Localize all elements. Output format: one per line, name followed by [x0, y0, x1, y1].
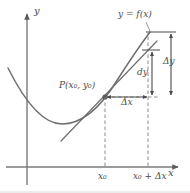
x-axis-label: x [168, 168, 174, 178]
x-tick-label-x0: x₀ [98, 172, 107, 181]
delta-x-label: Δx [121, 98, 133, 107]
tangent-line [61, 41, 157, 141]
curve-label-leader [146, 22, 150, 31]
curve-equation-label: y = f(x) [118, 10, 152, 19]
figure-canvas [0, 0, 190, 193]
y-axis-label: y [34, 6, 40, 16]
differential-diagram: y = f(x) y x P(x₀, y₀) Δx Δy dy x₀ x₀ + … [0, 0, 190, 193]
function-curve [8, 32, 150, 124]
dy-label: dy [137, 68, 148, 77]
x-tick-label-x0-plus-dx: x₀ + Δx [133, 172, 167, 181]
point-p-label: P(x₀, y₀) [59, 81, 95, 90]
delta-y-label: Δy [163, 57, 175, 66]
